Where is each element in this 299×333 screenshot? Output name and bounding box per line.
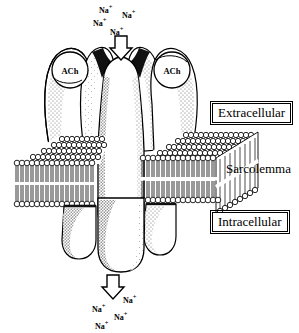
ach-label-right: ACh [163, 66, 180, 76]
intracellular-lobe-center [98, 198, 144, 272]
membrane-left-outer-leaflet [14, 160, 95, 166]
ion-label-na-bottom-4: Na+ [95, 323, 109, 331]
label-intracellular: Intracellular [212, 212, 288, 232]
ach-label-left: ACh [61, 66, 78, 76]
intracellular-lobe-left [62, 206, 96, 259]
ion-label-na-top-1: Na+ [99, 7, 113, 15]
label-extracellular: Extracellular [212, 103, 291, 123]
ion-label-na-top-2: Na+ [122, 12, 136, 20]
ion-label-na-bottom-3: Na+ [114, 314, 128, 322]
membrane-right-outer-leaflet [140, 155, 216, 161]
membrane-right-inner-leaflet [140, 197, 221, 203]
ion-label-na-bottom-2: Na+ [92, 306, 106, 314]
label-sarcolemma: Sarcolemma [226, 162, 291, 175]
ion-label-na-bottom-1: Na+ [123, 297, 137, 305]
intracellular-lobe-right [144, 204, 176, 255]
ion-label-na-top-4: Na+ [110, 29, 124, 37]
ion-label-na-top-3: Na+ [93, 20, 107, 28]
ach-binding-site-right: ACh [154, 52, 190, 88]
ach-binding-site-left: ACh [52, 52, 88, 88]
